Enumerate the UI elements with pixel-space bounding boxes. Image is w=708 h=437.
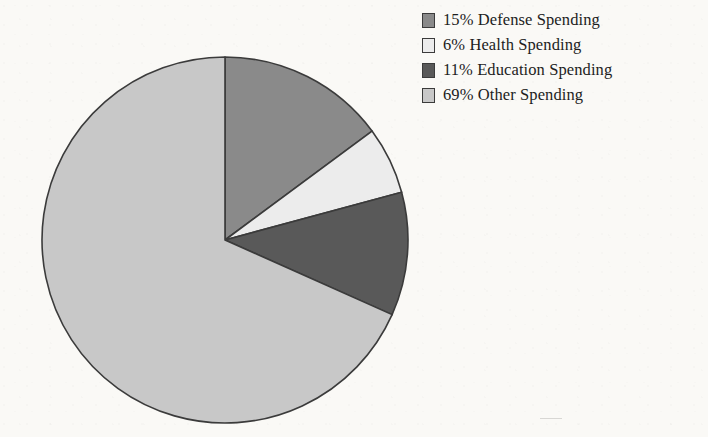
legend-swatch-icon bbox=[422, 63, 435, 78]
chart-legend: 15% Defense Spending6% Health Spending11… bbox=[422, 8, 704, 108]
legend-label: 15% Defense Spending bbox=[443, 12, 600, 29]
pie-slice-group bbox=[42, 57, 408, 423]
scan-artifact bbox=[540, 418, 562, 419]
legend-swatch-icon bbox=[422, 13, 435, 28]
legend-label: 11% Education Spending bbox=[443, 62, 612, 79]
legend-label: 69% Other Spending bbox=[443, 87, 583, 104]
legend-item: 15% Defense Spending bbox=[422, 8, 704, 33]
legend-item: 11% Education Spending bbox=[422, 58, 704, 83]
legend-swatch-icon bbox=[422, 88, 435, 103]
legend-item: 6% Health Spending bbox=[422, 33, 704, 58]
legend-swatch-icon bbox=[422, 38, 435, 53]
legend-item: 69% Other Spending bbox=[422, 83, 704, 108]
legend-label: 6% Health Spending bbox=[443, 37, 581, 54]
